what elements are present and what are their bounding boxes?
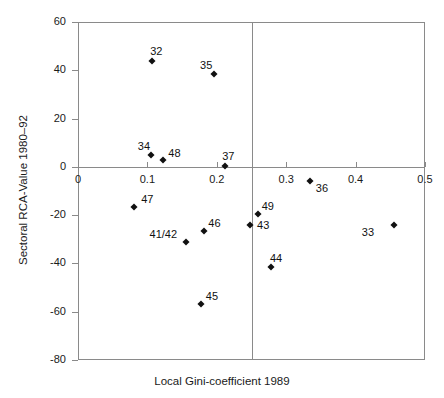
x-tick-label: 0.2 [197, 174, 237, 185]
y-tick-label: 40 [18, 64, 66, 75]
data-point-label: 36 [316, 183, 328, 194]
data-point-label: 46 [208, 218, 220, 229]
y-tick-mark [72, 312, 78, 313]
data-point-label: 35 [200, 60, 212, 71]
data-point-label: 32 [150, 46, 162, 57]
vertical-reference-line [252, 22, 253, 360]
scatter-chart: 6040200-20-40-60-80 00.10.20.30.40.5 323… [0, 0, 444, 398]
x-tick-label: 0.5 [405, 174, 444, 185]
data-point-label: 33 [362, 227, 374, 238]
y-tick-label: 60 [18, 16, 66, 27]
data-point-label: 45 [206, 291, 218, 302]
x-tick-label: 0.1 [127, 174, 167, 185]
y-tick-mark [72, 360, 78, 361]
x-tick-mark [425, 162, 426, 167]
data-point-label: 47 [141, 194, 153, 205]
x-tick-label: 0.4 [336, 174, 376, 185]
y-axis-title: Sectoral RCA-Value 1980–92 [16, 105, 30, 275]
y-tick-mark [72, 22, 78, 23]
x-tick-label: 0.3 [266, 174, 306, 185]
data-point-label: 37 [222, 151, 234, 162]
y-tick-mark [72, 119, 78, 120]
y-tick-label: -80 [18, 354, 66, 365]
data-point-label: 44 [270, 253, 282, 264]
data-point-label: 41/42 [150, 229, 178, 240]
data-point-label: 43 [257, 220, 269, 231]
data-point-label: 34 [138, 141, 150, 152]
y-tick-mark [72, 215, 78, 216]
x-axis-title: Local Gini-coefficient 1989 [0, 374, 444, 388]
y-tick-label: -60 [18, 306, 66, 317]
y-tick-mark [72, 70, 78, 71]
y-tick-mark [72, 263, 78, 264]
x-tick-label: 0 [58, 174, 98, 185]
data-point-label: 48 [168, 148, 180, 159]
data-point-label: 49 [262, 201, 274, 212]
